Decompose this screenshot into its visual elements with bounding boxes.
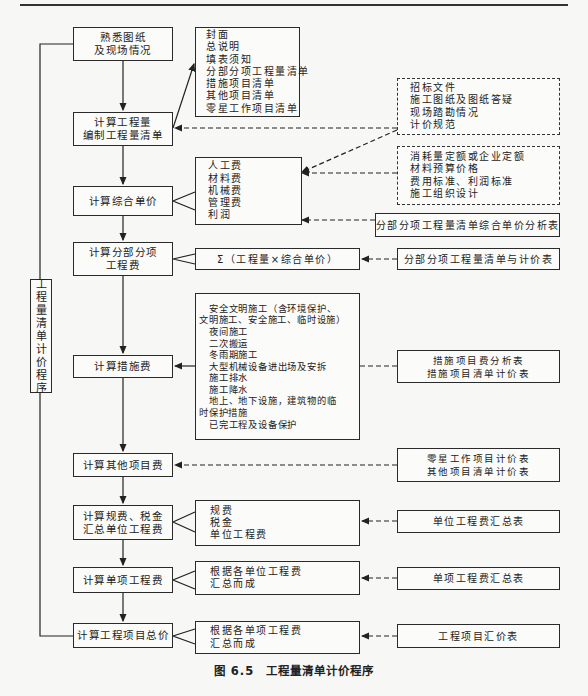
input-text: 计价规范 — [410, 119, 456, 131]
step-text: 计算措施费 — [94, 360, 152, 373]
detail-text: 根据各单项工程费 — [210, 625, 302, 637]
detail-text: 施工排水 — [199, 372, 248, 384]
form-text: 措施项目费分析表 — [433, 354, 525, 367]
detail-fees-components: 规费 税金 单位工程费 — [195, 500, 360, 546]
detail-unit-price-components: 人工费 材料费 机械费 管理费 利润 — [195, 157, 302, 225]
detail-text: 填表须知 — [206, 54, 252, 66]
detail-text: 已完工程及设备保护 — [199, 419, 297, 431]
detail-text: 施工降水 — [199, 384, 248, 396]
step-text: 计算工程项目总价 — [77, 629, 169, 642]
input-tender-docs: 招标文件 施工图纸及图纸答疑 现场踏勘情况 计价规范 — [397, 78, 560, 135]
detail-text: Σ（工程量×综合单价） — [217, 253, 338, 266]
detail-text: 冬雨期施工 — [199, 349, 258, 361]
step-text: 汇总单位工程费 — [83, 523, 164, 536]
detail-text: 汇总而成 — [210, 578, 256, 590]
input-quota-docs: 消耗量定额或企业定额 材料预算价格 费用标准、利润标准 施工组织设计 — [397, 146, 560, 205]
detail-text: 管理费 — [208, 197, 243, 209]
step-calc-single-project: 计算单项工程费 — [73, 567, 173, 593]
step-text: 工程费 — [106, 259, 141, 272]
step-text: 计算其他项目费 — [83, 459, 164, 472]
step-text: 熟悉图纸 — [100, 31, 146, 44]
figure-caption: 图 6.5 工程量清单计价程序 — [0, 662, 588, 678]
input-text: 现场踏勘情况 — [410, 107, 479, 119]
form-subitem-pricing: 分部分项工程量清单与计价表 — [397, 248, 560, 270]
detail-text: 地上、地下设施，建筑物的临 — [199, 395, 336, 407]
side-label-char: 工 — [36, 278, 47, 291]
form-measure: 措施项目费分析表 措施项目清单计价表 — [397, 350, 560, 383]
step-calc-other-cost: 计算其他项目费 — [73, 453, 173, 477]
detail-text: 时保护措施 — [199, 407, 248, 419]
step-calc-total-price: 计算工程项目总价 — [73, 623, 173, 648]
step-text: 编制工程量清单 — [83, 129, 164, 142]
step-text: 及现场情况 — [94, 44, 152, 57]
step-text: 计算工程量 — [94, 116, 152, 129]
detail-text: 人工费 — [208, 160, 243, 172]
step-text: 计算分部分项 — [89, 246, 158, 259]
detail-text: 利润 — [208, 209, 231, 221]
detail-text: 零星工作项目清单 — [206, 103, 298, 115]
detail-text: 单位工程费 — [210, 529, 268, 541]
detail-text: 文明施工、安全施工、临时设施） — [199, 314, 346, 326]
side-label-char: 价 — [36, 356, 47, 369]
form-text: 分部分项工程量清单与计价表 — [404, 253, 554, 266]
input-text: 材料预算价格 — [410, 163, 479, 175]
detail-text: 税金 — [210, 517, 233, 529]
form-text: 单项工程费汇总表 — [433, 572, 525, 585]
detail-subitem-formula: Σ（工程量×综合单价） — [195, 248, 360, 270]
side-label-char: 量 — [36, 304, 47, 317]
step-text: 计算综合单价 — [89, 195, 158, 208]
form-text: 工程项目汇价表 — [438, 630, 519, 643]
detail-total-project-note: 根据各单项工程费 汇总而成 — [195, 621, 360, 654]
side-label-char: 计 — [36, 343, 47, 356]
side-label-char: 程 — [36, 291, 47, 304]
step-calc-quantity: 计算工程量 编制工程量清单 — [73, 112, 173, 146]
detail-text: 总说明 — [206, 41, 241, 53]
step-calc-fees-tax: 计算规费、税金 汇总单位工程费 — [73, 505, 173, 540]
form-text: 措施项目清单计价表 — [427, 367, 531, 380]
detail-text: 夜间施工 — [199, 326, 248, 338]
side-label-char: 清 — [36, 317, 47, 330]
step-text: 计算规费、税金 — [83, 510, 164, 523]
form-text: 其他项目清单计价表 — [427, 465, 531, 478]
step-text: 计算单项工程费 — [83, 574, 164, 587]
form-project-summary: 工程项目汇价表 — [397, 624, 560, 648]
detail-text: 措施项目清单 — [206, 78, 275, 90]
detail-text: 分部分项工程量清单 — [206, 66, 310, 78]
detail-text: 大型机械设备进出场及安拆 — [199, 361, 327, 373]
detail-text: 其他项目清单 — [206, 90, 275, 102]
detail-text: 封面 — [206, 29, 229, 41]
input-text: 费用标准、利润标准 — [410, 176, 514, 188]
form-text: 单位工程费汇总表 — [433, 515, 525, 528]
form-single-summary: 单项工程费汇总表 — [397, 567, 560, 590]
input-text: 消耗量定额或企业定额 — [410, 151, 525, 163]
input-text: 招标文件 — [410, 82, 456, 94]
side-label-char: 程 — [36, 369, 47, 382]
header-rule — [20, 4, 568, 6]
input-text: 施工图纸及图纸答疑 — [410, 94, 514, 106]
side-label-char: 序 — [36, 382, 47, 395]
step-calc-measure-cost: 计算措施费 — [73, 355, 173, 378]
detail-single-project-note: 根据各单位工程费 汇总而成 — [195, 561, 360, 595]
detail-text: 二次搬运 — [199, 338, 248, 350]
procedure-side-label: 工 程 量 清 单 计 价 程 序 — [30, 279, 52, 393]
form-text: 零星工作项目计价表 — [427, 452, 531, 465]
form-other: 零星工作项目计价表 其他项目清单计价表 — [397, 448, 560, 482]
step-familiarize: 熟悉图纸 及现场情况 — [73, 27, 173, 61]
detail-text: 安全文明施工（含环境保护、 — [199, 303, 336, 315]
detail-text: 根据各单位工程费 — [210, 566, 302, 578]
detail-text: 汇总而成 — [210, 638, 256, 650]
step-calc-unit-price: 计算综合单价 — [73, 186, 173, 216]
step-calc-subitem-cost: 计算分部分项 工程费 — [73, 242, 173, 276]
form-unit-summary: 单位工程费汇总表 — [397, 510, 560, 533]
detail-measure-items: 安全文明施工（含环境保护、 文明施工、安全施工、临时设施） 夜间施工 二次搬运 … — [195, 293, 360, 440]
detail-text: 机械费 — [208, 185, 243, 197]
side-label-char: 单 — [36, 330, 47, 343]
detail-bill-contents: 封面 总说明 填表须知 分部分项工程量清单 措施项目清单 其他项目清单 零星工作… — [195, 27, 300, 117]
form-text: 分部分项工程量清单综合单价分析表 — [376, 219, 560, 232]
detail-text: 材料费 — [208, 173, 243, 185]
input-text: 施工组织设计 — [410, 188, 479, 200]
detail-text: 规费 — [210, 505, 233, 517]
form-unit-price-analysis: 分部分项工程量清单综合单价分析表 — [375, 213, 560, 237]
